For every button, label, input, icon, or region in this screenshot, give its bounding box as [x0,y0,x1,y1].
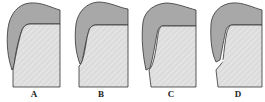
panel-d [211,3,262,87]
figure: A B C D [0,0,265,102]
panel-c [142,3,196,87]
diagram-canvas [0,0,265,102]
panel-label-b: B [91,89,111,99]
panel-a [7,3,60,87]
panel-label-c: C [161,89,181,99]
panel-label-d: D [228,89,248,99]
panel-b [75,2,128,87]
panel-label-a: A [24,89,44,99]
